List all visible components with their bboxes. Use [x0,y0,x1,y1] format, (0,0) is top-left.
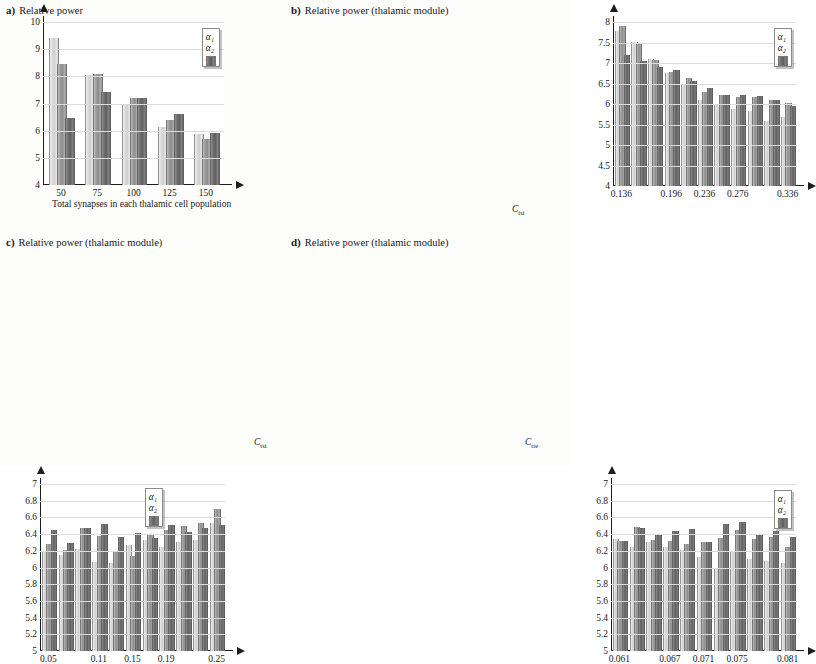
legend-label: α₂ [778,505,786,515]
panel-d-xaxis-subscript: tre [531,442,538,449]
gridline [613,22,796,23]
y-axis-tick-label: 6.5 [598,79,610,89]
bar-b-0.296-α₃ [757,96,763,186]
gridline [611,601,796,602]
y-axis-tick-label: 6 [603,563,608,573]
gridline [611,534,796,535]
x-axis-tick-label: 125 [163,188,177,198]
legend-c: α₁α₂α₃ [145,488,163,527]
gridline [40,551,225,552]
legend-swatch-icon [778,56,788,66]
legend-item: α₃ [206,53,214,64]
y-axis-tick-label: 5.8 [25,579,37,589]
x-axis-arrow-icon [808,647,816,655]
panel-b-letter: b) [291,4,301,16]
x-axis-tick-label: 0.196 [661,189,682,199]
x-axis-tick-label: 100 [126,188,140,198]
bar-b-0.196-α₃ [673,70,679,186]
gridline [611,584,796,585]
panel-c-plot-area: 76.86.66.46.265.85.65.45.250.050.110.150… [40,484,225,651]
gridline [43,131,224,132]
y-axis-tick-label: 6 [605,99,610,109]
bar-c-0.09-α₃ [84,528,90,651]
panel-b-title: Relative power (thalamic module) [305,5,449,16]
legend-item: α₁ [778,31,786,42]
x-axis-tick-label: 150 [199,188,213,198]
gridline [40,517,225,518]
bar-d-0.069-α₃ [689,529,695,651]
gridline [613,63,796,64]
figure-caption [4,458,567,467]
gridline [40,484,225,485]
panel-c-title: Relative power (thalamic module) [19,237,163,248]
gridline [611,517,796,518]
bar-a-100-α₃ [137,98,147,185]
bar-c-0.11-α₃ [101,524,107,651]
legend-label: α₂ [206,43,214,53]
y-axis-tick-label: 5.2 [25,629,37,639]
gridline [613,104,796,105]
y-axis-tick-label: 5.5 [598,120,610,130]
x-axis-tick-label: 50 [56,188,66,198]
panel-c-heading: c)Relative power (thalamic module) [6,236,162,249]
gridline [43,76,224,77]
legend-d: α₁α₂α₃ [774,490,792,529]
x-axis-tick-label: 0.081 [777,654,798,664]
bar-d-0.073-α₃ [723,524,729,651]
y-axis-arrow-icon [40,4,48,12]
x-axis-tick-label: 0.075 [726,654,747,664]
x-axis-tick-label: 0.067 [659,654,680,664]
bar-d-0.079-α₃ [773,531,779,651]
bar-b-0.316-α₃ [773,100,779,186]
x-axis-arrow-icon [236,181,244,189]
panel-b: b)Relative power (thalamic module) 87.57… [285,0,571,233]
x-axis-tick-label: 0.336 [777,189,798,199]
gridline [40,568,225,569]
gridline [43,104,224,105]
legend-item: α₁ [149,491,157,502]
bar-b-0.336-α₃ [790,106,796,186]
gridline [611,568,796,569]
x-axis-tick-label: 0.071 [693,654,714,664]
gridline [40,534,225,535]
x-axis-tick-label: 75 [93,188,103,198]
legend-item: α₁ [778,493,786,504]
x-axis-tick-label: 0.276 [727,189,748,199]
panel-c-letter: c) [6,236,15,248]
panel-b-xaxis-label: Cisi [512,204,525,216]
y-axis-tick-label: 6.6 [596,512,608,522]
y-axis-tick-label: 6.4 [596,529,608,539]
bar-b-0.276-α₃ [740,95,746,186]
panel-d-letter: d) [291,236,301,248]
y-axis-tick-label: 5.8 [596,579,608,589]
gridline [611,618,796,619]
legend-swatch-icon [778,518,788,528]
gridline [40,618,225,619]
legend-label: α₁ [778,494,786,504]
gridline [43,158,224,159]
y-axis-tick-label: 6.2 [596,546,608,556]
panel-d: d)Relative power (thalamic module) 76.86… [285,232,571,466]
y-axis-tick-label: 8 [605,17,610,27]
legend-b: α₁α₂α₃ [774,28,792,67]
bar-b-0.176-α₃ [657,67,663,186]
x-axis-tick-label: 0.05 [40,654,57,664]
legend-label: α₁ [778,32,786,42]
bar-d-0.067-α₃ [672,531,678,651]
bar-b-0.256-α₃ [723,95,729,186]
legend-item: α₂ [149,502,157,513]
panel-c-xaxis-label: Ctsi [254,437,267,449]
panel-d-xaxis-label: Ctre [525,437,538,449]
bar-b-0.156-α₃ [640,61,646,186]
y-axis-tick-label: 8 [35,71,40,81]
legend-item: α₂ [206,42,214,53]
y-axis-tick-label: 6.8 [25,496,37,506]
x-axis-arrow-icon [808,182,816,190]
gridline [611,551,796,552]
y-axis-tick-label: 6 [32,563,37,573]
y-axis-tick-label: 5 [603,646,608,656]
legend-label: α₂ [778,43,786,53]
gridline [40,501,225,502]
legend-item: α₃ [149,513,157,524]
